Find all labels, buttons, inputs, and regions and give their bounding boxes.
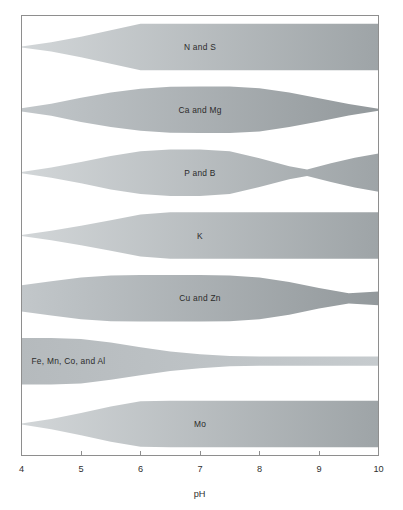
axis-tick-label: 4 bbox=[19, 464, 24, 474]
chart-canvas: N and SCa and MgP and BKCu and ZnFe, Mn,… bbox=[0, 0, 403, 510]
nutrient-availability-chart: N and SCa and MgP and BKCu and ZnFe, Mn,… bbox=[0, 0, 403, 510]
x-axis-title: pH bbox=[194, 489, 206, 499]
axis-tick-label: 5 bbox=[78, 464, 83, 474]
band-label: K bbox=[197, 231, 203, 241]
band-label: Cu and Zn bbox=[179, 293, 220, 303]
band-label: Fe, Mn, Co, and Al bbox=[32, 356, 106, 366]
axis-tick-label: 8 bbox=[257, 464, 262, 474]
axis-tick-label: 10 bbox=[373, 464, 383, 474]
band-label: P and B bbox=[184, 168, 216, 178]
band-label: Ca and Mg bbox=[178, 105, 221, 115]
axis-tick-label: 9 bbox=[316, 464, 321, 474]
axis-tick-label: 6 bbox=[138, 464, 143, 474]
axis-tick-label: 7 bbox=[197, 464, 202, 474]
band-label: Mo bbox=[194, 419, 206, 429]
band-label: N and S bbox=[184, 42, 216, 52]
